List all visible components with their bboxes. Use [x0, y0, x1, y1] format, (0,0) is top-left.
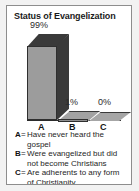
legend-separator-c: = [21, 168, 26, 178]
legend-item-b: B = Were evangelized but did not become … [15, 149, 127, 168]
bar-a-side-face [56, 34, 69, 121]
bar-a-value-label: 99% [30, 20, 48, 30]
bar-b-value-label: 1% [65, 97, 78, 107]
legend-item-c: C = Are adherents to any form of Christi… [15, 168, 127, 185]
legend-key-c: C [15, 168, 21, 178]
plot-area: 99% 1% 0% A B C [7, 20, 131, 124]
legend-separator-a: = [21, 130, 26, 140]
figure-container: Status of Evangelization 99% 1% 0% A B C [0, 0, 139, 191]
legend-description-b: Were evangelized but did not become Chri… [27, 149, 127, 168]
legend-key-b: B [15, 149, 21, 159]
bar-c-value-label: 0% [98, 97, 111, 107]
legend-key-a: A [15, 130, 21, 140]
chart-card: Status of Evangelization 99% 1% 0% A B C [6, 5, 132, 185]
legend-separator-b: = [21, 149, 26, 159]
legend-item-a: A = Have never heard the gospel [15, 130, 127, 149]
legend-description-a: Have never heard the gospel [27, 130, 127, 149]
legend-description-c: Are adherents to any form of Christianit… [27, 168, 127, 185]
bar-a [27, 46, 57, 120]
chart-legend: A = Have never heard the gospel B = Were… [15, 130, 127, 185]
